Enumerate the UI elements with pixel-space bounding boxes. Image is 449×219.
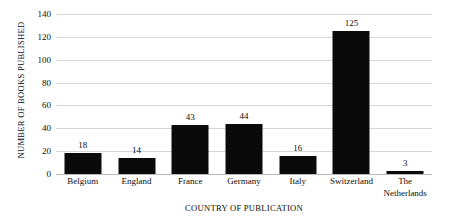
- bar-value-label: 125: [345, 19, 359, 28]
- bar[interactable]: [172, 125, 209, 174]
- bar-slot[interactable]: 16: [271, 14, 325, 174]
- y-axis-tick-label: 20: [10, 146, 56, 156]
- y-axis-tick-label: 120: [10, 32, 56, 42]
- bar-slot[interactable]: 125: [325, 14, 379, 174]
- bar[interactable]: [225, 124, 262, 174]
- x-axis-category-label: Italy: [271, 176, 325, 188]
- bar-value-label: 3: [403, 159, 408, 168]
- x-axis-category-label: Germany: [217, 176, 271, 188]
- y-axis-tick-label: 60: [10, 100, 56, 110]
- bar[interactable]: [387, 171, 424, 174]
- bar[interactable]: [279, 156, 316, 174]
- x-axis-category-label: England: [110, 176, 164, 188]
- bar[interactable]: [118, 158, 155, 174]
- bars-layer: 18144344161253: [56, 14, 432, 174]
- bar-slot[interactable]: 18: [56, 14, 110, 174]
- bar-value-label: 43: [186, 113, 195, 122]
- x-axis-category-label: Belgium: [56, 176, 110, 188]
- y-axis-tick-label: 80: [10, 78, 56, 88]
- x-axis-category-label: The Netherlands: [378, 176, 432, 199]
- y-axis-tick-label: 140: [10, 9, 56, 19]
- x-axis-title: COUNTRY OF PUBLICATION: [56, 203, 432, 213]
- bar-slot[interactable]: 43: [163, 14, 217, 174]
- y-axis-tick-label: 40: [10, 123, 56, 133]
- y-axis-tick-label: 0: [10, 169, 56, 179]
- gridline: [56, 174, 432, 175]
- bar[interactable]: [333, 31, 370, 174]
- bar-chart: NUMBER OF BOOKS PUBLISHED 02040608010012…: [0, 0, 449, 219]
- y-axis-tick-label: 100: [10, 55, 56, 65]
- bar-value-label: 44: [239, 112, 248, 121]
- x-axis-category-label: Switzerland: [325, 176, 379, 188]
- x-axis-category-labels: BelgiumEnglandFranceGermanyItalySwitzerl…: [56, 176, 432, 202]
- x-axis-category-label: France: [163, 176, 217, 188]
- bar-value-label: 14: [132, 146, 141, 155]
- bar-value-label: 18: [78, 141, 87, 150]
- bar-slot[interactable]: 14: [110, 14, 164, 174]
- bar[interactable]: [64, 153, 101, 174]
- y-axis-tick-labels: 020406080100120140: [0, 14, 56, 174]
- bar-slot[interactable]: 44: [217, 14, 271, 174]
- bar-slot[interactable]: 3: [378, 14, 432, 174]
- bar-value-label: 16: [293, 144, 302, 153]
